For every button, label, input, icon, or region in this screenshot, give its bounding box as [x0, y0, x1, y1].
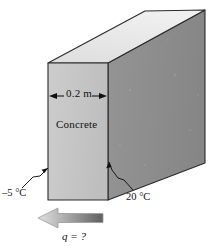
heat-flux-label: q = ?	[62, 231, 86, 242]
cold-side-leader-line	[22, 168, 48, 188]
heat-flux-arrow	[38, 208, 103, 228]
cold-temperature-label: –5 °C	[2, 188, 26, 199]
figure-canvas	[0, 0, 216, 249]
thickness-label: 0.2 m	[66, 88, 92, 99]
slab-front-face	[48, 63, 108, 200]
material-label: Concrete	[56, 119, 97, 130]
concrete-slab	[48, 10, 205, 200]
heat-conduction-figure: 0.2 m Concrete –5 °C 20 °C q = ?	[0, 0, 216, 249]
hot-temperature-label: 20 °C	[126, 192, 150, 203]
